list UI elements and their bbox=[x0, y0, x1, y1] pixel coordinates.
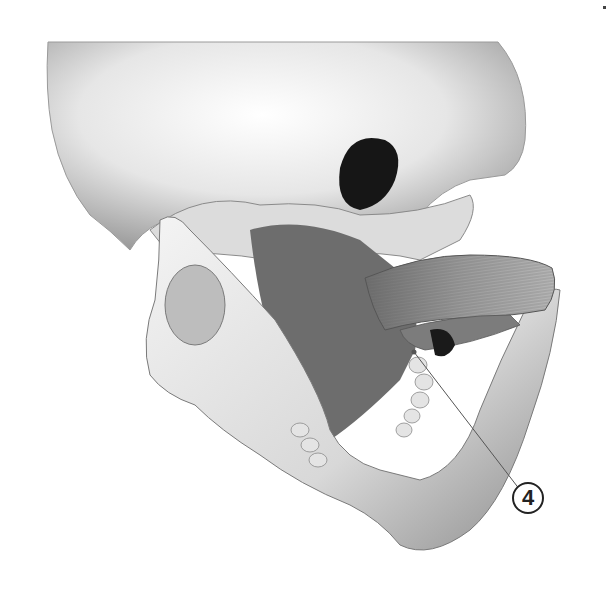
callout-number: 4 bbox=[522, 485, 534, 511]
callout-target-dot bbox=[412, 350, 417, 355]
callout-label-4: 4 bbox=[512, 482, 544, 514]
corner-mark bbox=[603, 6, 606, 9]
anatomical-illustration: 4 bbox=[0, 0, 609, 594]
external-acoustic-region bbox=[165, 265, 225, 345]
